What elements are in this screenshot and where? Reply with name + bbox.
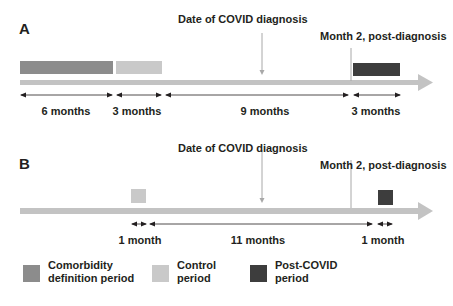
month2-label-a: Month 2, post-diagnosis xyxy=(320,30,447,42)
panel-a-label: A xyxy=(19,20,30,37)
duration-label-a-3: 9 months xyxy=(241,105,290,117)
timeline-a xyxy=(20,80,420,85)
duration-label-b-2: 11 months xyxy=(231,234,285,246)
duration-label-b-1: 1 month xyxy=(119,234,162,246)
timeline-b-arrowhead xyxy=(418,202,433,220)
legend-post-covid-line1: Post-COVID xyxy=(275,259,337,272)
legend-comorbidity-line1: Comorbidity xyxy=(48,259,134,272)
legend-swatch-control xyxy=(152,265,169,282)
legend-swatch-comorbidity xyxy=(23,265,40,282)
legend-post-covid-line2: period xyxy=(275,272,337,285)
legend-swatch-post-covid xyxy=(250,265,267,282)
legend-control-line1: Control xyxy=(177,259,216,272)
duration-label-a-2: 3 months xyxy=(113,105,162,117)
covid-marker-arrow-a xyxy=(260,70,265,75)
covid-marker-arrow-b xyxy=(260,198,265,203)
legend-comorbidity-line2: definition period xyxy=(48,272,134,285)
panel-b-label: B xyxy=(19,155,30,172)
duration-label-b-3: 1 month xyxy=(362,234,405,246)
duration-label-a-4: 3 months xyxy=(352,105,401,117)
comorbidity-bar xyxy=(20,61,113,74)
duration-label-a-1: 6 months xyxy=(42,105,91,117)
covid-diagnosis-label-a: Date of COVID diagnosis xyxy=(178,13,308,25)
timeline-a-arrowhead xyxy=(418,74,433,91)
legend-item-comorbidity: Comorbidity definition period xyxy=(48,259,134,285)
post-covid-square-b xyxy=(378,190,393,205)
month2-label-b: Month 2, post-diagnosis xyxy=(320,159,447,171)
panel-a-graphics xyxy=(20,33,433,95)
legend-control-line2: period xyxy=(177,272,216,285)
covid-diagnosis-label-b: Date of COVID diagnosis xyxy=(178,142,308,154)
post-covid-bar xyxy=(353,63,400,76)
control-square-b xyxy=(131,189,146,203)
legend-item-post-covid: Post-COVID period xyxy=(275,259,337,285)
timeline-b xyxy=(20,208,420,214)
control-bar xyxy=(116,61,162,74)
legend-item-control: Control period xyxy=(177,259,216,285)
